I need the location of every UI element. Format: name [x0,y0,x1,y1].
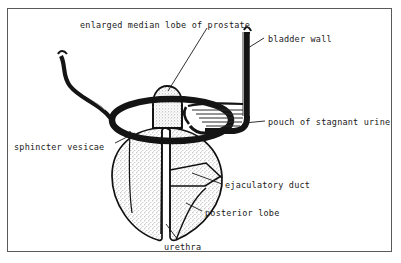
bladder-wall-strip [190,27,251,133]
prostate-body [112,128,222,240]
leader-median-lobe [168,28,207,91]
anatomical-diagram [0,0,401,263]
figure-root: enlarged median lobe of prostate bladder… [0,0,401,263]
label-posterior-lobe: posterior lobe [205,208,279,218]
label-ejaculatory-duct: ejaculatory duct [225,180,310,190]
label-sphincter-vesicae: sphincter vesicae [14,142,104,152]
ureter-vessel [58,51,113,121]
label-bladder-wall: bladder wall [268,34,332,44]
label-urethra: urethra [164,242,201,252]
label-pouch-of-stagnant-urine: pouch of stagnant urine [268,117,390,127]
label-enlarged-median-lobe-of-prostate: enlarged median lobe of prostate [80,20,250,30]
